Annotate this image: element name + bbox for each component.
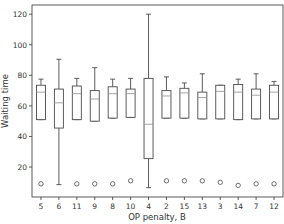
y-axis-label: Waiting time bbox=[0, 74, 10, 128]
box-11 bbox=[72, 78, 81, 186]
x-tick-label: 14 bbox=[233, 202, 243, 211]
box-13 bbox=[198, 74, 207, 183]
iqr-box bbox=[198, 92, 207, 119]
plot-frame bbox=[32, 5, 283, 197]
x-tick-label: 9 bbox=[92, 202, 97, 211]
outlier-marker bbox=[236, 183, 240, 187]
x-tick-label: 2 bbox=[164, 202, 169, 211]
x-tick-label: 10 bbox=[126, 202, 136, 211]
box-10 bbox=[126, 78, 135, 183]
x-tick-label: 4 bbox=[146, 202, 151, 211]
plot-area-border bbox=[32, 5, 283, 197]
y-tick-label: 120 bbox=[13, 10, 28, 19]
box-3 bbox=[216, 85, 225, 184]
iqr-box bbox=[162, 91, 171, 119]
iqr-box bbox=[234, 84, 243, 119]
box-5 bbox=[36, 79, 45, 186]
x-axis-label: OP penalty, B bbox=[128, 212, 186, 222]
x-tick-label: 5 bbox=[39, 202, 44, 211]
box-9 bbox=[90, 68, 99, 186]
x-tick-label: 15 bbox=[180, 202, 190, 211]
box-7 bbox=[252, 74, 261, 186]
x-tick-label: 3 bbox=[218, 202, 223, 211]
y-tick-label: 40 bbox=[17, 132, 27, 141]
x-tick-label: 12 bbox=[269, 202, 279, 211]
y-tick-label: 100 bbox=[13, 41, 28, 50]
iqr-box bbox=[72, 86, 81, 120]
box-4 bbox=[144, 14, 153, 188]
iqr-box bbox=[108, 87, 117, 118]
iqr-box bbox=[90, 91, 99, 122]
outlier-marker bbox=[164, 179, 168, 183]
outlier-marker bbox=[93, 182, 97, 186]
iqr-box bbox=[54, 89, 63, 128]
box-8 bbox=[108, 79, 117, 186]
boxplot-chart: 20406080100120 56119810421513314712 OP p… bbox=[0, 0, 284, 224]
iqr-box bbox=[144, 78, 153, 158]
x-axis: 56119810421513314712 bbox=[39, 197, 279, 211]
x-tick-label: 6 bbox=[57, 202, 62, 211]
iqr-box bbox=[36, 85, 45, 119]
y-axis: 20406080100120 bbox=[13, 10, 32, 172]
outlier-marker bbox=[200, 179, 204, 183]
outlier-marker bbox=[254, 182, 258, 186]
iqr-box bbox=[270, 85, 279, 119]
outlier-marker bbox=[39, 182, 43, 186]
box-series bbox=[36, 14, 278, 188]
outlier-marker bbox=[75, 182, 79, 186]
outlier-marker bbox=[218, 180, 222, 184]
y-tick-label: 60 bbox=[17, 102, 27, 111]
outlier-marker bbox=[182, 179, 186, 183]
y-tick-label: 20 bbox=[17, 163, 27, 172]
x-tick-label: 13 bbox=[198, 202, 208, 211]
iqr-box bbox=[216, 85, 225, 119]
iqr-box bbox=[252, 89, 261, 119]
x-tick-label: 7 bbox=[254, 202, 259, 211]
outlier-marker bbox=[110, 182, 114, 186]
box-15 bbox=[180, 83, 189, 183]
chart-canvas: 20406080100120 56119810421513314712 OP p… bbox=[0, 0, 284, 224]
y-tick-label: 80 bbox=[17, 71, 27, 80]
box-14 bbox=[234, 79, 243, 187]
outlier-marker bbox=[272, 182, 276, 186]
box-6 bbox=[54, 59, 63, 184]
outlier-marker bbox=[128, 179, 132, 183]
x-tick-label: 11 bbox=[72, 202, 82, 211]
x-tick-label: 8 bbox=[110, 202, 115, 211]
box-2 bbox=[162, 77, 171, 183]
box-12 bbox=[270, 81, 279, 186]
